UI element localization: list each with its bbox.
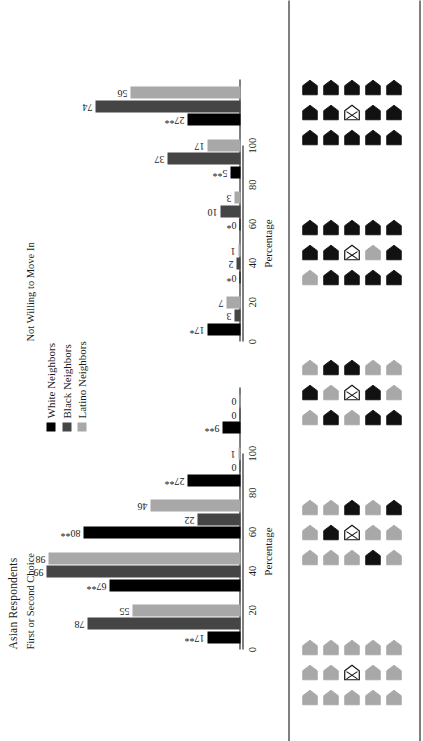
house-row xyxy=(363,621,384,707)
bar-latino-neighbors xyxy=(226,296,240,308)
x-axis-label: Percentage xyxy=(261,145,273,341)
house-row xyxy=(321,621,342,707)
house-row xyxy=(363,341,384,427)
neighbor-house-icon xyxy=(384,217,403,237)
bar-group: 67**9998 xyxy=(44,544,240,596)
bar-value-label: 99 xyxy=(33,566,43,576)
bar-group: 17**7855 xyxy=(44,597,240,649)
bar-black-neighbors xyxy=(234,310,240,322)
bar-white-neighbors xyxy=(222,421,240,433)
house-row xyxy=(321,341,342,427)
neighbor-house-icon xyxy=(321,407,340,427)
house-row xyxy=(342,621,363,707)
neighbor-house-icon xyxy=(384,242,403,262)
house-row xyxy=(384,61,405,147)
neighbor-house-icon xyxy=(342,217,361,237)
neighbor-house-icon xyxy=(342,497,361,517)
plot-area: 17*370*210*1035**371727**7456 xyxy=(44,79,240,341)
x-tick-label: 100 xyxy=(246,137,257,153)
bar-white-neighbors xyxy=(83,526,240,538)
bar-value-label: 0* xyxy=(226,219,236,229)
neighbor-house-icon xyxy=(300,522,319,542)
neighbor-house-icon xyxy=(321,127,340,147)
neighbor-house-icon xyxy=(300,407,319,427)
neighbor-house-icon xyxy=(363,382,382,402)
house-row xyxy=(300,481,321,567)
neighbor-house-icon xyxy=(384,77,403,97)
neighborhood-1 xyxy=(300,621,412,707)
house-row xyxy=(321,201,342,287)
house-row xyxy=(300,201,321,287)
neighbor-house-icon xyxy=(363,77,382,97)
neighbor-house-icon xyxy=(300,382,319,402)
figure-bottom-rule xyxy=(419,0,420,741)
neighbor-house-icon xyxy=(384,497,403,517)
neighbor-house-icon xyxy=(363,407,382,427)
neighbor-house-icon xyxy=(363,497,382,517)
bar-latino-neighbors xyxy=(238,447,240,459)
bar-latino-neighbors xyxy=(207,139,240,151)
neighbor-house-icon xyxy=(342,127,361,147)
house-row xyxy=(363,481,384,567)
bar-value-label: 17* xyxy=(189,324,204,334)
bar-black-neighbors xyxy=(87,618,240,630)
neighbor-house-icon xyxy=(321,242,340,262)
bar-value-label: 55 xyxy=(119,605,129,615)
neighbor-house-icon xyxy=(321,547,340,567)
bar-value-label: 0 xyxy=(231,395,236,405)
figure-canvas: Asian Respondents White Neighbors Black … xyxy=(0,0,423,741)
panel-not-willing-to-move-in: Not Willing to Move In 17*370*210*1035**… xyxy=(24,79,284,341)
bar-group: 0*103 xyxy=(44,184,240,236)
x-tick-label: 40 xyxy=(246,565,257,576)
house-row xyxy=(321,61,342,147)
bar-white-neighbors xyxy=(239,271,240,283)
bar-black-neighbors xyxy=(239,408,240,420)
neighbor-house-icon xyxy=(300,637,319,657)
neighbor-house-icon xyxy=(321,217,340,237)
neighbor-house-icon xyxy=(342,637,361,657)
x-axis-rule xyxy=(242,145,243,341)
bar-value-label: 37 xyxy=(154,153,164,163)
neighbor-house-icon xyxy=(342,77,361,97)
house-row xyxy=(342,201,363,287)
house-row xyxy=(342,341,363,427)
neighbor-house-icon xyxy=(363,217,382,237)
bar-group: 5**3717 xyxy=(44,131,240,183)
neighbor-house-icon xyxy=(321,687,340,707)
x-tick-label: 80 xyxy=(246,487,257,498)
panel-first-or-second-choice: First or Second Choice 17**785567**99988… xyxy=(24,387,284,649)
neighbor-house-icon xyxy=(300,127,319,147)
neighbor-house-icon xyxy=(300,662,319,682)
neighbor-house-icon xyxy=(363,357,382,377)
neighbor-house-icon xyxy=(384,382,403,402)
neighbor-house-icon xyxy=(300,217,319,237)
x-tick-label: 20 xyxy=(246,605,257,616)
house-row xyxy=(300,621,321,707)
x-tick-label: 0 xyxy=(246,338,257,343)
neighbor-house-icon xyxy=(363,267,382,287)
house-row xyxy=(384,621,405,707)
neighbor-house-icon xyxy=(384,547,403,567)
neighbor-house-icon xyxy=(300,242,319,262)
neighbor-house-icon xyxy=(300,687,319,707)
neighbor-house-icon xyxy=(363,547,382,567)
bar-value-label: 80** xyxy=(60,527,80,537)
neighbor-house-icon xyxy=(342,357,361,377)
bar-value-label: 98 xyxy=(35,553,45,563)
bar-latino-neighbors xyxy=(234,191,240,203)
neighbor-house-icon xyxy=(300,77,319,97)
neighbor-house-icon xyxy=(363,687,382,707)
bar-white-neighbors xyxy=(239,218,240,230)
x-tick-label: 60 xyxy=(246,526,257,537)
neighbor-house-icon xyxy=(321,637,340,657)
bar-black-neighbors xyxy=(220,205,240,217)
bar-black-neighbors xyxy=(236,257,240,269)
neighbor-house-icon xyxy=(300,267,319,287)
respondent-house-icon xyxy=(342,662,361,682)
neighbor-house-icon xyxy=(342,547,361,567)
x-axis-label: Percentage xyxy=(261,453,273,649)
neighborhood-diagrams xyxy=(300,0,412,741)
bar-value-label: 27** xyxy=(164,114,184,124)
bar-value-label: 9** xyxy=(204,422,219,432)
bar-group: 27**7456 xyxy=(44,79,240,131)
